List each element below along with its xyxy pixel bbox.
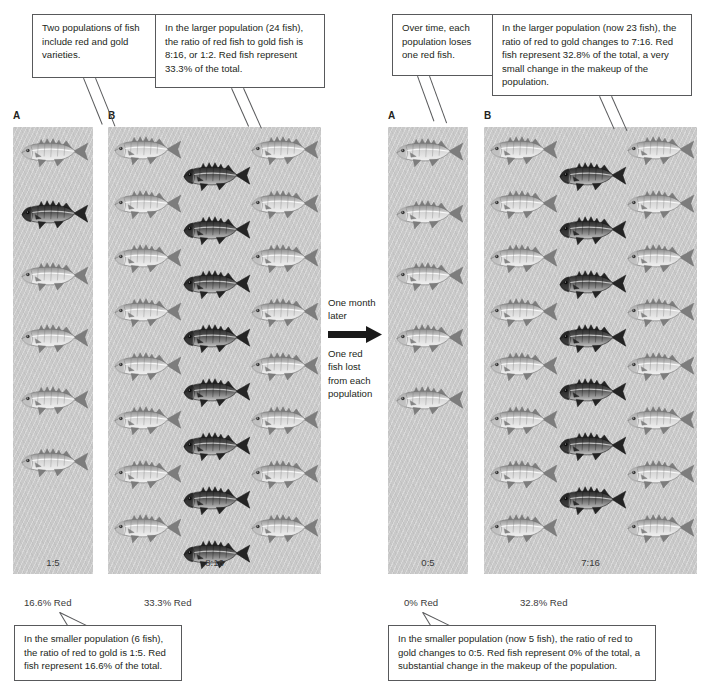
right-arrow-icon <box>328 326 382 343</box>
gold-fish-icon <box>622 349 696 383</box>
red-fish-icon <box>178 483 252 517</box>
red-fish-icon <box>178 213 252 247</box>
gold-fish-icon <box>246 133 320 167</box>
gold-fish-icon <box>391 135 465 169</box>
red-fish-icon <box>554 267 628 301</box>
percent-label-before-b: 33.3% Red <box>144 597 191 608</box>
gold-fish-icon <box>109 349 183 383</box>
red-fish-icon <box>554 321 628 355</box>
gold-fish-icon <box>109 511 183 545</box>
red-fish-icon <box>554 429 628 463</box>
gold-fish-icon <box>16 445 90 479</box>
gold-fish-icon <box>485 457 559 491</box>
gold-fish-icon <box>622 133 696 167</box>
panel-after-a: 0:5 <box>388 127 468 574</box>
gold-fish-icon <box>246 349 320 383</box>
percent-label-before-a: 16.6% Red <box>24 597 71 608</box>
gold-fish-icon <box>622 187 696 221</box>
gold-fish-icon <box>622 241 696 275</box>
panel-label-before-a: A <box>13 110 20 121</box>
gold-fish-icon <box>109 187 183 221</box>
gold-fish-icon <box>622 511 696 545</box>
gold-fish-icon <box>391 197 465 231</box>
gold-fish-icon <box>485 349 559 383</box>
panel-before-a: 1:5 <box>13 127 93 574</box>
callout-top-right-large: In the larger population (now 23 fish), … <box>492 14 692 96</box>
panel-after-b: 7:16 <box>484 127 697 574</box>
gold-fish-icon <box>485 133 559 167</box>
transition-line-4: fish lost <box>328 360 384 373</box>
red-fish-icon <box>178 267 252 301</box>
callout-top-center: In the larger population (24 fish), the … <box>155 14 325 88</box>
callout-top-center-text: In the larger population (24 fish), the … <box>165 21 316 75</box>
red-fish-icon <box>554 159 628 193</box>
transition-line-3: One red <box>328 347 384 360</box>
gold-fish-icon <box>16 135 90 169</box>
gold-fish-icon <box>622 403 696 437</box>
transition-line-6: population <box>328 387 384 400</box>
gold-fish-icon <box>485 295 559 329</box>
red-fish-icon <box>16 197 90 231</box>
transition-block: One month later One red fish lost from e… <box>328 296 384 401</box>
panel-label-after-a: A <box>388 110 395 121</box>
gold-fish-icon <box>246 241 320 275</box>
callout-bottom-left-text: In the smaller population (6 fish), the … <box>24 632 173 673</box>
callout-top-left: Two populations of fish include red and … <box>32 14 158 78</box>
gold-fish-icon <box>485 403 559 437</box>
gold-fish-icon <box>485 511 559 545</box>
ratio-label-after-b: 7:16 <box>484 557 697 568</box>
percent-label-after-b: 32.8% Red <box>520 597 567 608</box>
red-fish-icon <box>178 375 252 409</box>
callout-bottom-right: In the smaller population (now 5 fish), … <box>388 625 656 681</box>
ratio-label-before-b: 8:16 <box>108 557 321 568</box>
panel-before-b: 8:16 <box>108 127 321 574</box>
callout-top-right-small-text: Over time, each population loses one red… <box>402 21 487 62</box>
panel-label-after-b: B <box>484 110 491 121</box>
gold-fish-icon <box>109 457 183 491</box>
gold-fish-icon <box>246 403 320 437</box>
red-fish-icon <box>178 429 252 463</box>
gold-fish-icon <box>622 295 696 329</box>
callout-top-right-large-text: In the larger population (now 23 fish), … <box>502 21 683 89</box>
gold-fish-icon <box>622 457 696 491</box>
callout-top-right-small: Over time, each population loses one red… <box>392 14 496 76</box>
transition-line-2: later <box>328 309 384 322</box>
gold-fish-icon <box>391 259 465 293</box>
gold-fish-icon <box>485 187 559 221</box>
red-fish-icon <box>178 159 252 193</box>
red-fish-icon <box>554 375 628 409</box>
gold-fish-icon <box>109 403 183 437</box>
gold-fish-icon <box>246 457 320 491</box>
ratio-label-before-a: 1:5 <box>13 557 93 568</box>
leader-top-left-b <box>95 78 115 127</box>
leader-top-left-a <box>83 78 103 125</box>
gold-fish-icon <box>391 383 465 417</box>
callout-top-left-text: Two populations of fish include red and … <box>42 21 149 62</box>
gold-fish-icon <box>391 321 465 355</box>
gold-fish-icon <box>246 187 320 221</box>
gold-fish-icon <box>246 511 320 545</box>
red-fish-icon <box>554 483 628 517</box>
red-fish-icon <box>554 213 628 247</box>
callout-bottom-left: In the smaller population (6 fish), the … <box>14 625 182 681</box>
transition-line-1: One month <box>328 296 384 309</box>
gold-fish-icon <box>16 259 90 293</box>
gold-fish-icon <box>109 241 183 275</box>
gold-fish-icon <box>16 383 90 417</box>
gold-fish-icon <box>109 295 183 329</box>
gold-fish-icon <box>109 133 183 167</box>
transition-line-5: from each <box>328 374 384 387</box>
red-fish-icon <box>178 321 252 355</box>
gold-fish-icon <box>485 241 559 275</box>
ratio-label-after-a: 0:5 <box>388 557 468 568</box>
gold-fish-icon <box>246 295 320 329</box>
callout-bottom-right-text: In the smaller population (now 5 fish), … <box>398 632 647 673</box>
percent-label-after-a: 0% Red <box>404 597 438 608</box>
gold-fish-icon <box>16 321 90 355</box>
